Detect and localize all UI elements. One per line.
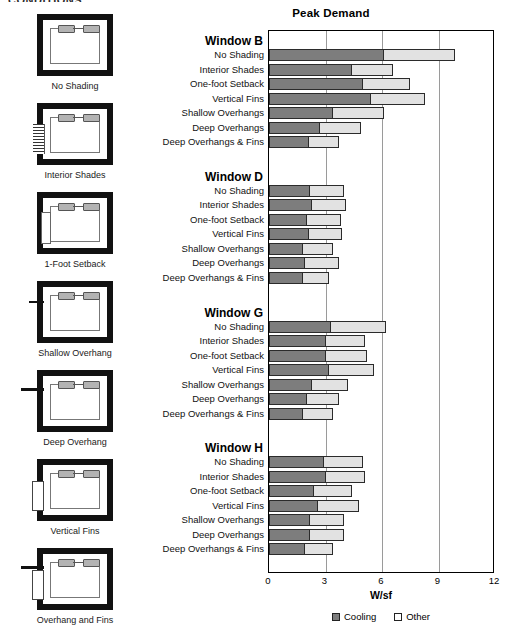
chart-title: Peak Demand [150,7,512,19]
group-title: Window B [205,33,263,49]
room-floor [50,473,100,509]
shallow-overhang-icon [29,301,44,303]
bar-category-label: Deep Overhangs [192,529,264,541]
group-title: Window H [205,440,263,456]
bar-category-label: One-foot Setback [190,485,264,497]
bar-category-label: Deep Overhangs & Fins [163,543,264,555]
bar-segment-other [302,408,333,420]
bar-segment-other [311,379,348,391]
thumbnail-label: Deep Overhang [43,437,107,448]
bar-segment-cooling [269,529,310,541]
setback-icon [41,212,51,244]
bar-segment-other [325,335,366,347]
bar-segment-other [309,185,344,197]
bar-category-label: Deep Overhangs & Fins [163,272,264,284]
x-axis-label: W/sf [268,589,494,601]
legend-swatch [332,613,340,621]
bar-row: Vertical Fins [269,228,495,240]
legend-label: Other [406,611,430,622]
x-tick-label: 3 [322,575,327,586]
bar-segment-other [383,49,456,61]
bar-segment-cooling [269,257,305,269]
bar-segment-cooling [269,379,312,391]
bar-segment-other [313,485,352,497]
bar-segment-cooling [269,272,303,284]
room-floor [50,384,100,420]
bar-segment-cooling [269,543,305,555]
bar-row: Vertical Fins [269,93,495,105]
bar-segment-cooling [269,514,310,526]
room-floor [50,562,100,598]
thumbnail-overhang-and-fins: Overhang and Fins [0,548,150,637]
ceiling-lamp-icon [83,381,100,389]
bar-category-label: Deep Overhangs [192,257,264,269]
x-tick-label: 9 [435,575,440,586]
ceiling-lamp-icon [83,292,100,300]
bar-category-label: Shallow Overhangs [182,514,264,526]
bar-segment-other [309,529,344,541]
thumbnail-1-foot-setback: 1-Foot Setback [0,192,150,281]
bar-segment-other [332,107,384,119]
bar-segment-cooling [269,485,314,497]
thumbnail-label: Shallow Overhang [38,348,112,359]
ceiling-lamp-icon [83,559,100,567]
bar-category-label: No Shading [214,321,264,333]
bar-segment-other [370,93,426,105]
bar-category-label: One-foot Setback [190,350,264,362]
bar-segment-other [325,471,366,483]
bar-category-label: Deep Overhangs [192,393,264,405]
bar-segment-cooling [269,78,363,90]
thumbnail-interior-shades: Interior Shades [0,103,150,192]
bar-category-label: Interior Shades [200,335,264,347]
bar-segment-other [311,199,346,211]
vertical-fins-icon [32,570,44,600]
lamp-connector [73,295,84,296]
bar-category-label: No Shading [214,456,264,468]
bar-segment-other [308,228,343,240]
thumbnail-label: Interior Shades [44,170,105,181]
x-tick-label: 0 [265,575,270,586]
bar-segment-other [302,243,333,255]
deep-overhang-icon [21,566,44,569]
legend-swatch [394,613,402,621]
group-title: Window G [204,305,263,321]
bar-row: Shallow Overhangs [269,514,495,526]
bar-row: Deep Overhangs & Fins [269,543,495,555]
deep-overhang-icon [21,388,44,391]
page-heading: CONDITIONS [8,0,82,2]
bar-segment-other [302,272,329,284]
bar-row: One-foot Setback [269,350,495,362]
bar-segment-other [308,136,339,148]
bar-row: Deep Overhangs [269,122,495,134]
x-tick-label: 6 [378,575,383,586]
plot-area: Window BNo ShadingInterior ShadesOne-foo… [268,30,494,573]
bar-row: Deep Overhangs & Fins [269,136,495,148]
bar-segment-other [309,514,344,526]
thumbnail-no-shading: No Shading [0,14,150,103]
bar-segment-other [306,393,339,405]
room-diagram-icon [37,370,113,432]
bar-category-label: Interior Shades [200,64,264,76]
bar-row: Deep Overhangs [269,393,495,405]
bar-row: No Shading [269,49,495,61]
thumbnail-label: Vertical Fins [50,526,99,537]
lamp-connector [73,384,84,385]
bar-category-label: Interior Shades [200,471,264,483]
bar-segment-cooling [269,228,309,240]
bar-segment-other [362,78,410,90]
ceiling-lamp-icon [83,114,100,122]
thumbnail-deep-overhang: Deep Overhang [0,370,150,459]
room-diagram-icon [37,548,113,610]
chart-legend: CoolingOther [268,611,494,622]
bar-row: Deep Overhangs & Fins [269,272,495,284]
room-floor [50,206,100,242]
ceiling-lamp-icon [83,470,100,478]
interior-shade-icon [33,124,45,154]
vertical-fins-icon [32,481,44,511]
lamp-connector [73,562,84,563]
bar-category-label: Shallow Overhangs [182,379,264,391]
bar-segment-other [351,64,393,76]
legend-item-cooling: Cooling [332,611,376,622]
bar-segment-cooling [269,321,331,333]
bar-segment-cooling [269,64,352,76]
